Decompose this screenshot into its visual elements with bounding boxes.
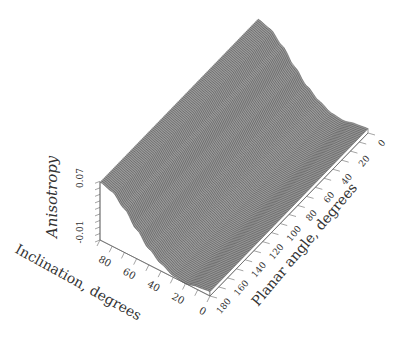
y-tick-label: 180 [214,296,233,316]
y-tick-label: 160 [232,278,251,298]
x-tick-label: 80 [97,253,113,269]
x-axis-label: Inclination, degrees [13,241,145,324]
x-tick-label: 60 [121,266,137,282]
y-tick-label: 0 [376,137,388,148]
surface-mesh [100,19,368,296]
x-tick-label: 40 [146,278,162,294]
x-tick-label: 20 [170,291,186,307]
x-tick-label: 0 [197,305,208,318]
z-axis-label: Anisotropy [43,155,61,240]
z-tick-label: 0.07 [75,168,85,188]
z-tick-label: -0.01 [75,220,85,243]
y-tick-label: 20 [357,153,372,168]
surface-plot: 806040200020406080100120140160180-0.010.… [0,0,405,351]
